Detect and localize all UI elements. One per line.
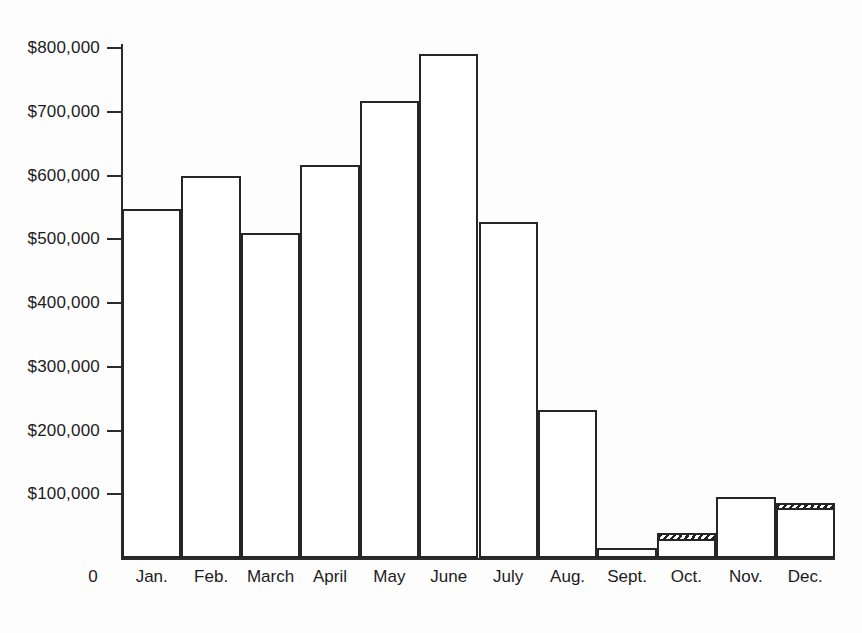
y-axis-tick bbox=[107, 47, 121, 49]
y-axis-tick bbox=[107, 302, 121, 304]
y-axis-tick-label: $200,000 bbox=[0, 422, 100, 439]
y-axis-tick-label: $600,000 bbox=[0, 167, 100, 184]
x-axis-label-dec: Dec. bbox=[776, 568, 835, 585]
y-axis-tick-label: $700,000 bbox=[0, 103, 100, 120]
bar-july bbox=[479, 222, 538, 558]
y-axis-tick-label: $100,000 bbox=[0, 485, 100, 502]
y-axis-tick-label: $800,000 bbox=[0, 39, 100, 56]
x-axis-label-jan: Jan. bbox=[122, 568, 181, 585]
y-axis-tick bbox=[107, 366, 121, 368]
y-axis-tick-label: $500,000 bbox=[0, 230, 100, 247]
bar-feb bbox=[181, 176, 240, 559]
bar-hatched-segment-dec bbox=[776, 503, 835, 511]
bar-april bbox=[300, 165, 359, 558]
bar-june bbox=[419, 54, 478, 558]
x-axis-label-aug: Aug. bbox=[538, 568, 597, 585]
bar-sept bbox=[597, 548, 656, 558]
bar-hatched-segment-oct bbox=[657, 533, 716, 541]
y-axis-tick bbox=[107, 111, 121, 113]
y-axis-tick-label: $400,000 bbox=[0, 294, 100, 311]
bar-chart: $100,000$200,000$300,000$400,000$500,000… bbox=[0, 0, 862, 633]
y-axis-tick bbox=[107, 175, 121, 177]
x-axis-label-june: June bbox=[419, 568, 478, 585]
bar-dec bbox=[776, 503, 835, 558]
y-axis-tick bbox=[107, 238, 121, 240]
bar-aug bbox=[538, 410, 597, 558]
x-axis-label-april: April bbox=[300, 568, 359, 585]
x-axis-label-sept: Sept. bbox=[597, 568, 656, 585]
y-axis-tick bbox=[107, 430, 121, 432]
x-axis-label-march: March bbox=[241, 568, 300, 585]
x-axis-label-oct: Oct. bbox=[657, 568, 716, 585]
x-axis-label-feb: Feb. bbox=[181, 568, 240, 585]
x-axis-label-may: May bbox=[360, 568, 419, 585]
bar-may bbox=[360, 101, 419, 558]
x-axis-line bbox=[121, 558, 835, 560]
y-axis-tick bbox=[107, 493, 121, 495]
bar-jan bbox=[122, 209, 181, 558]
y-axis-tick-label: $300,000 bbox=[0, 358, 100, 375]
origin-label: 0 bbox=[78, 568, 108, 585]
x-axis-label-july: July bbox=[479, 568, 538, 585]
bar-nov bbox=[716, 497, 775, 558]
bar-march bbox=[241, 233, 300, 558]
x-axis-label-nov: Nov. bbox=[716, 568, 775, 585]
